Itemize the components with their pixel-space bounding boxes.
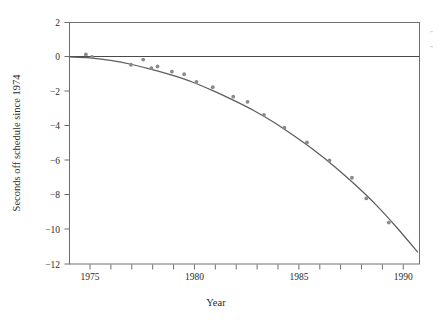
data-point [149,66,153,70]
data-point [387,221,391,225]
data-point [350,176,354,180]
data-point [129,63,133,67]
x-tick-label: 1990 [394,272,413,282]
y-tick-label: 2 [55,18,60,28]
y-tick-label: −4 [50,121,60,131]
data-point [170,70,174,74]
data-point [305,140,309,144]
data-point [211,85,215,89]
x-tick-label: 1980 [185,272,204,282]
data-point [231,95,235,99]
data-point [182,72,186,76]
data-point [156,65,160,69]
y-tick-label: −8 [50,190,60,200]
y-axis-ticks [65,23,70,265]
data-points [84,53,391,225]
scan-artifacts [430,31,433,47]
data-point [90,55,94,59]
data-point [141,58,145,62]
y-axis-title: Seconds off schedule since 1974 [11,74,22,212]
y-tick-label: −2 [50,87,60,97]
x-axis-ticks [90,265,403,270]
x-tick-label: 1985 [289,272,308,282]
plot-frame [70,23,420,265]
data-point [328,159,332,163]
fitted-curve [70,57,418,252]
y-tick-label: 0 [55,52,60,62]
data-point [195,80,199,84]
chart-figure: 2 0 −2 −4 −6 −8 −10 −12 1975 1980 1985 1… [0,0,442,323]
data-point [246,100,250,104]
y-tick-label: −12 [45,260,60,270]
y-axis-tick-labels: 2 0 −2 −4 −6 −8 −10 −12 [45,18,60,270]
data-point [283,126,287,130]
data-point [364,197,368,201]
data-point [84,53,88,57]
y-tick-label: −10 [45,225,60,235]
x-axis-tick-labels: 1975 1980 1985 1990 [81,272,414,282]
y-tick-label: −6 [50,156,60,166]
x-axis-title: Year [206,297,226,308]
x-tick-label: 1975 [81,272,100,282]
data-point [262,113,266,117]
